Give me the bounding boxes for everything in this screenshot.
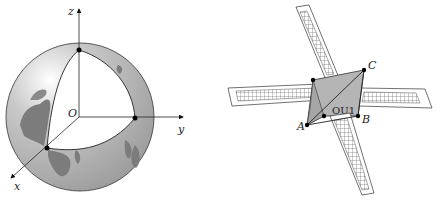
point-y (133, 116, 138, 121)
point-c (362, 68, 366, 72)
satellite-figure: A B C OU1 (228, 5, 432, 195)
body-label: OU1 (332, 105, 355, 116)
point-z (77, 48, 82, 53)
diagram-canvas: z y x O (0, 0, 441, 202)
point-inner (322, 114, 326, 118)
z-axis-label: z (67, 5, 74, 18)
point-c-label: C (368, 59, 377, 72)
y-axis-label: y (177, 123, 185, 136)
solar-panel-left (228, 84, 322, 106)
point-top-left (311, 78, 315, 82)
point-b (356, 114, 360, 118)
origin-label: O (68, 107, 77, 120)
solar-panel-right (358, 88, 432, 108)
point-a (305, 123, 309, 127)
solar-panel-top (296, 5, 339, 80)
point-a-label: A (296, 120, 305, 133)
point-b-label: B (361, 113, 370, 126)
earth-figure: z y x O (6, 5, 185, 193)
point-x (45, 146, 50, 151)
x-axis-label: x (14, 180, 21, 193)
